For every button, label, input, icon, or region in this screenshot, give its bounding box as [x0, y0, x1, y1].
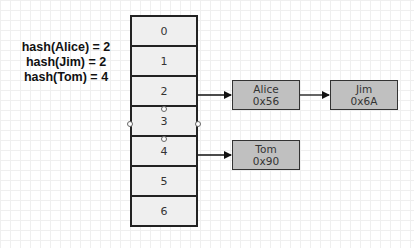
node-address: 0x90: [253, 155, 279, 167]
node-alice[interactable]: Alice 0x56: [232, 80, 300, 110]
node-name: Tom: [255, 143, 276, 155]
node-name: Alice: [253, 83, 278, 95]
node-tom[interactable]: Tom 0x90: [232, 140, 300, 170]
node-address: 0x56: [253, 95, 279, 107]
arrows-layer: [0, 0, 414, 248]
node-address: 0x6A: [351, 95, 378, 107]
node-name: Jim: [356, 83, 372, 95]
node-jim[interactable]: Jim 0x6A: [330, 80, 398, 110]
